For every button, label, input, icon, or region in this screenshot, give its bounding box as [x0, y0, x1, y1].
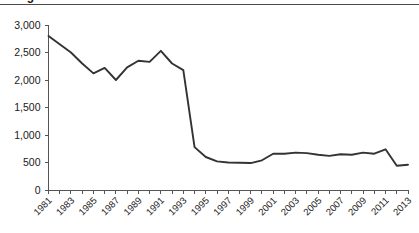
y-axis-group [45, 25, 49, 190]
x-tick-labels-group: 1981198319851987198919911993199519971999… [31, 195, 413, 218]
x-tick-label: 2009 [346, 195, 369, 218]
x-axis-group [49, 190, 409, 194]
x-tick-label: 1995 [188, 195, 211, 218]
y-tick-label: 2,000 [14, 74, 40, 86]
x-tick-label: 2003 [278, 195, 301, 218]
chart-plot-area: 05001,0001,5002,0002,5003,000 1981198319… [0, 0, 419, 233]
x-tick-label: 1993 [166, 195, 189, 218]
x-tick-label: 1997 [211, 195, 234, 218]
x-tick-label: 1981 [31, 195, 54, 218]
x-tick-label: 2007 [323, 195, 346, 218]
y-tick-label: 2,500 [14, 46, 40, 58]
x-tick-label: 1991 [144, 195, 167, 218]
x-tick-label: 1985 [76, 195, 99, 218]
y-tick-label: 1,000 [14, 129, 40, 141]
x-tick-label: 2011 [369, 195, 391, 217]
y-tick-label: 0 [35, 184, 41, 196]
x-tick-label: 2013 [391, 195, 414, 218]
x-tick-label: 1989 [121, 195, 144, 218]
data-series-line [49, 36, 409, 166]
line-chart-svg: 05001,0001,5002,0002,5003,000 1981198319… [0, 0, 419, 233]
x-tick-label: 1999 [233, 195, 256, 218]
y-tick-label: 1,500 [14, 101, 40, 113]
figure-container: Figure 05001,0001,5002,0002,5003,000 198… [0, 0, 419, 233]
x-tick-label: 2005 [301, 195, 324, 218]
x-tick-label: 1983 [54, 195, 77, 218]
y-tick-label: 500 [23, 156, 41, 168]
x-tick-label: 1987 [99, 195, 122, 218]
x-tick-label: 2001 [256, 195, 279, 218]
y-tick-labels-group: 05001,0001,5002,0002,5003,000 [14, 19, 40, 196]
y-tick-label: 3,000 [14, 19, 40, 31]
